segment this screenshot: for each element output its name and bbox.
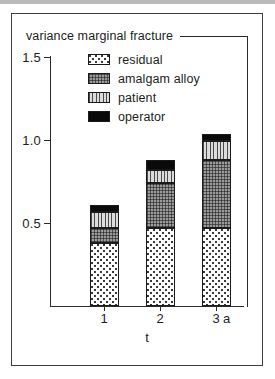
bar-segment-patient[interactable] <box>90 212 119 228</box>
bar-group-1[interactable] <box>90 205 119 306</box>
legend-item-amalgam-alloy[interactable]: amalgam alloy <box>88 69 200 88</box>
bar-group-3[interactable] <box>202 134 231 306</box>
y-axis-line <box>50 56 51 307</box>
legend-swatch-residual-icon <box>88 54 110 65</box>
bar-segment-residual[interactable] <box>146 228 175 306</box>
x-axis-line <box>50 306 244 307</box>
y-tick-label-3: 0.5 <box>22 216 41 231</box>
legend-item-patient[interactable]: patient <box>88 88 200 107</box>
plot-area: variance marginal fracture 1.5 1.0 0.5 1… <box>0 0 275 379</box>
bar-segment-amalgam-alloy[interactable] <box>146 183 175 228</box>
legend-label-amalgam-alloy: amalgam alloy <box>118 72 200 86</box>
x-tick-label-3: 3 <box>212 311 219 326</box>
y-tick-label-2: 1.0 <box>22 133 41 148</box>
bar-segment-operator[interactable] <box>202 134 231 141</box>
legend-swatch-operator-icon <box>88 111 110 122</box>
x-tick-label-1: 1 <box>100 311 107 326</box>
legend-item-operator[interactable]: operator <box>88 107 200 126</box>
title-rule-drop <box>247 36 248 307</box>
chart-title-row: variance marginal fracture <box>26 28 248 44</box>
bar-segment-amalgam-alloy[interactable] <box>202 160 231 228</box>
x-axis-end-label: a <box>223 311 230 326</box>
y-tick-1: 1.5 <box>44 57 50 58</box>
bar-group-2[interactable] <box>146 160 175 306</box>
y-tick-2: 1.0 <box>44 140 50 141</box>
x-axis-title: t <box>145 330 149 345</box>
y-tick-label-1: 1.5 <box>22 50 41 65</box>
legend-label-patient: patient <box>118 91 156 105</box>
bar-segment-patient[interactable] <box>202 141 231 160</box>
chart-legend: residual amalgam alloy patient operator <box>88 50 200 126</box>
title-rule <box>180 36 248 37</box>
legend-swatch-amalgam-alloy-icon <box>88 73 110 84</box>
chart-title: variance marginal fracture <box>26 29 173 43</box>
bar-segment-residual[interactable] <box>90 243 119 306</box>
legend-swatch-patient-icon <box>88 92 110 103</box>
bar-segment-operator[interactable] <box>90 205 119 212</box>
bar-segment-residual[interactable] <box>202 228 231 306</box>
legend-label-residual: residual <box>118 53 163 67</box>
y-tick-3: 0.5 <box>44 223 50 224</box>
bar-segment-patient[interactable] <box>146 170 175 183</box>
legend-label-operator: operator <box>118 110 165 124</box>
bar-segment-amalgam-alloy[interactable] <box>90 228 119 243</box>
legend-item-residual[interactable]: residual <box>88 50 200 69</box>
x-tick-label-2: 2 <box>156 311 163 326</box>
bar-segment-operator[interactable] <box>146 160 175 170</box>
figure-canvas: variance marginal fracture 1.5 1.0 0.5 1… <box>0 0 275 379</box>
